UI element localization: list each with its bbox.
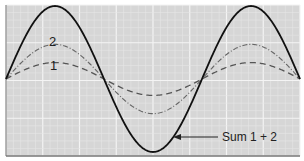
sum-label: Sum 1 + 2 xyxy=(222,130,277,144)
sine-sum-chart: 2 1 Sum 1 + 2 xyxy=(0,0,304,161)
wave-1-label: 1 xyxy=(50,58,57,73)
wave-2-label: 2 xyxy=(49,34,56,49)
